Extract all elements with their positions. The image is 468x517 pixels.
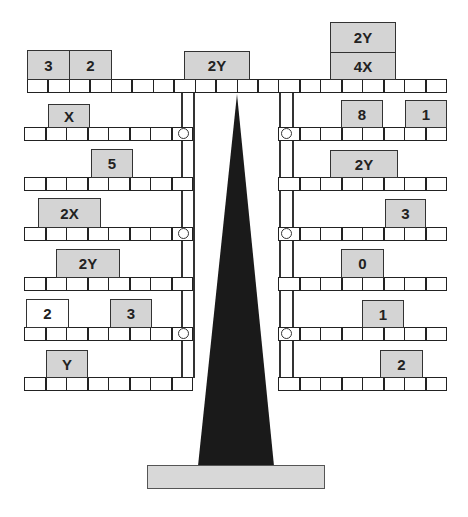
beam-cell (171, 177, 194, 191)
beam-cell (341, 227, 363, 241)
beam-cell (24, 277, 45, 291)
beam-cell (278, 79, 298, 93)
left-row-2 (24, 177, 193, 191)
beam-cell (89, 79, 110, 93)
beam-cell (299, 227, 321, 241)
beam-cell (215, 79, 236, 93)
beam-cell (129, 127, 151, 141)
beam-cell (341, 327, 363, 341)
beam-cell (87, 327, 109, 341)
beam-cell (320, 227, 341, 241)
beam-cell (362, 277, 383, 291)
beam-cell (129, 377, 151, 391)
beam-cell (87, 377, 109, 391)
weight-block[interactable]: 2Y (56, 249, 120, 278)
weight-block[interactable]: 1 (405, 100, 447, 128)
weight-block[interactable]: X (48, 104, 90, 128)
beam-cell (24, 127, 45, 141)
weight-block[interactable]: 2 (380, 350, 423, 378)
weight-block[interactable]: Y (46, 350, 88, 378)
beam-cell (45, 277, 67, 291)
beam-cell (66, 127, 87, 141)
beam-cell (24, 177, 45, 191)
beam-cell (425, 227, 448, 241)
weight-block-white[interactable]: 2 (26, 299, 69, 328)
beam-cell (320, 327, 341, 341)
beam-cell (362, 327, 383, 341)
weight-block[interactable]: 3 (110, 299, 152, 328)
beam-cell (87, 227, 109, 241)
weight-block[interactable]: 2Y (330, 150, 398, 178)
right-row-4 (278, 277, 447, 291)
beam-cell (150, 277, 171, 291)
weight-block[interactable]: 5 (91, 149, 133, 178)
beam-cell (87, 177, 109, 191)
beam-cell (27, 79, 47, 93)
weight-block[interactable]: 4X (330, 52, 396, 80)
beam-cell (299, 277, 321, 291)
beam-cell (404, 127, 425, 141)
beam-cell (111, 79, 131, 93)
pivot-peg (281, 328, 292, 339)
pivot-peg (281, 128, 292, 139)
beam-cell (404, 377, 425, 391)
left-row-6 (24, 377, 193, 391)
beam-cell (171, 277, 194, 291)
beam-cell (383, 177, 405, 191)
beam-cell (108, 127, 129, 141)
beam-cell (404, 277, 425, 291)
beam-cell (383, 377, 405, 391)
beam-cell (171, 377, 194, 391)
beam-cell (383, 327, 405, 341)
beam-cell (404, 327, 425, 341)
beam-cell (278, 177, 299, 191)
beam-cell (129, 327, 151, 341)
beam-cell (341, 277, 363, 291)
left-row-1 (24, 127, 193, 141)
weight-block[interactable]: 3 (385, 199, 426, 228)
beam-cell (108, 277, 129, 291)
beam-cell (45, 177, 67, 191)
beam-cell (362, 127, 383, 141)
beam-cell (425, 127, 448, 141)
weight-block[interactable]: 3 (27, 50, 70, 80)
beam-cell (320, 377, 341, 391)
weight-block[interactable]: 2 (69, 50, 112, 80)
right-row-3 (278, 227, 447, 241)
beam-cell (299, 327, 321, 341)
beam-cell (299, 177, 321, 191)
left-row-5 (24, 327, 193, 341)
beam-cell (173, 79, 194, 93)
beam-cell (278, 277, 299, 291)
weight-block[interactable]: 8 (341, 100, 383, 128)
pivot-peg (178, 128, 189, 139)
weight-block[interactable]: 2Y (330, 22, 396, 53)
beam-cell (45, 227, 67, 241)
weight-block[interactable]: 2Y (184, 51, 250, 80)
weight-block[interactable]: 1 (362, 300, 404, 328)
main-beam (27, 79, 447, 93)
beam-cell (45, 327, 67, 341)
beam-cell (108, 177, 129, 191)
beam-cell (425, 177, 448, 191)
beam-cell (108, 327, 129, 341)
beam-cell (66, 177, 87, 191)
beam-cell (129, 177, 151, 191)
beam-cell (150, 377, 171, 391)
beam-cell (383, 127, 405, 141)
left-post-inner (193, 92, 195, 378)
beam-cell (299, 377, 321, 391)
weight-block[interactable]: 2X (38, 198, 101, 228)
pivot-peg (178, 228, 189, 239)
beam-cell (66, 227, 87, 241)
beam-cell (404, 79, 424, 93)
beam-cell (425, 277, 448, 291)
beam-cell (87, 277, 109, 291)
beam-cell (320, 277, 341, 291)
weight-block[interactable]: 0 (341, 249, 384, 278)
beam-cell (69, 79, 89, 93)
beam-cell (87, 127, 109, 141)
beam-cell (66, 377, 87, 391)
beam-cell (129, 227, 151, 241)
right-row-1 (278, 127, 447, 141)
